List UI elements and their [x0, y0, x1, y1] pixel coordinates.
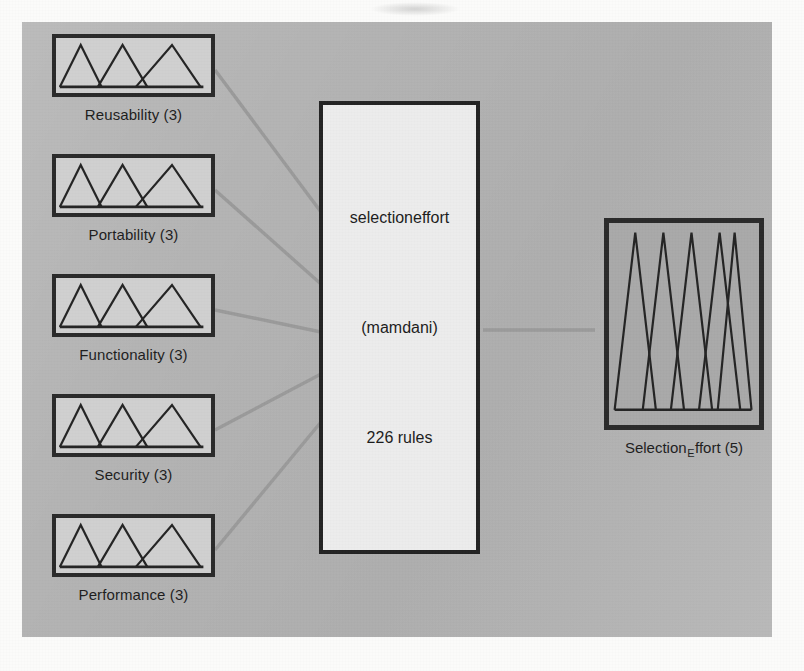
output-label-prefix: Selection	[625, 439, 687, 456]
input-variable-performance[interactable]: Performance (3)	[52, 514, 215, 603]
input-variable-portability[interactable]: Portability (3)	[52, 154, 215, 243]
input-label-security: Security (3)	[52, 466, 215, 483]
system-rule-count: 226 rules	[367, 429, 433, 447]
input-label-portability: Portability (3)	[52, 226, 215, 243]
fis-diagram-screenshot: Reusability (3) Portability (3)	[0, 0, 804, 671]
output-label-selection-effort: SelectionEffort (5)	[595, 439, 773, 459]
input-label-performance: Performance (3)	[52, 586, 215, 603]
mf-curves-icon	[56, 278, 211, 333]
output-label-suffix: ffort (5)	[695, 439, 743, 456]
input-variable-reusability[interactable]: Reusability (3)	[52, 34, 215, 123]
output-variable-selection-effort[interactable]: SelectionEffort (5)	[595, 218, 773, 430]
connector-security	[215, 374, 321, 430]
mf-plot-security[interactable]	[52, 394, 215, 457]
mf-curves-icon	[609, 223, 759, 425]
system-name: selectioneffort	[350, 209, 449, 227]
mf-plot-performance[interactable]	[52, 514, 215, 577]
mf-plot-functionality[interactable]	[52, 274, 215, 337]
mf-curves-icon	[56, 158, 211, 213]
mf-curves-icon	[56, 518, 211, 573]
input-label-reusability: Reusability (3)	[52, 106, 215, 123]
mf-plot-portability[interactable]	[52, 154, 215, 217]
mf-plot-reusability[interactable]	[52, 34, 215, 97]
scan-artifact-smudge	[370, 2, 460, 16]
system-inference-type: (mamdani)	[361, 319, 437, 337]
mf-plot-selection-effort[interactable]	[604, 218, 764, 430]
output-label-subscript: E	[687, 447, 695, 459]
fis-system-block[interactable]: selectioneffort (mamdani) 226 rules	[319, 101, 480, 554]
input-variable-security[interactable]: Security (3)	[52, 394, 215, 483]
connector-performance	[215, 422, 321, 550]
input-variable-functionality[interactable]: Functionality (3)	[52, 274, 215, 363]
connector-reusability	[215, 70, 321, 212]
input-label-functionality: Functionality (3)	[52, 346, 215, 363]
connector-portability	[215, 190, 321, 284]
mf-curves-icon	[56, 398, 211, 453]
mf-curves-icon	[56, 38, 211, 93]
connector-functionality	[215, 310, 321, 332]
